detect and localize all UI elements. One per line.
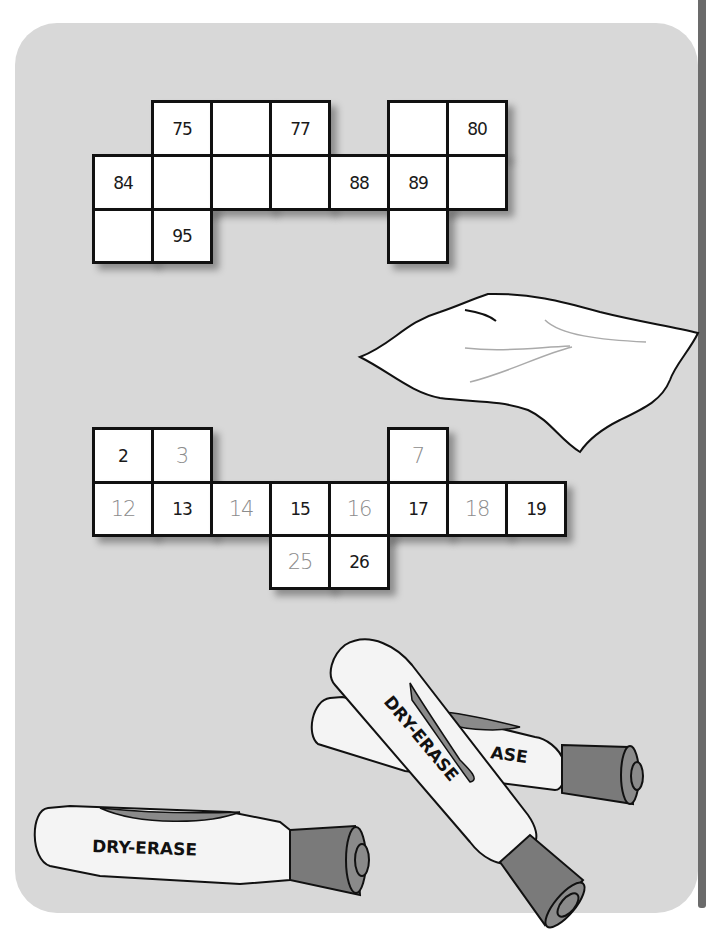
marker-label-left: DRY-ERASE <box>92 836 197 860</box>
markers-illustration: ASE DRY-ERASE DRY-ERASE <box>0 0 706 933</box>
marker-icon <box>35 806 369 895</box>
